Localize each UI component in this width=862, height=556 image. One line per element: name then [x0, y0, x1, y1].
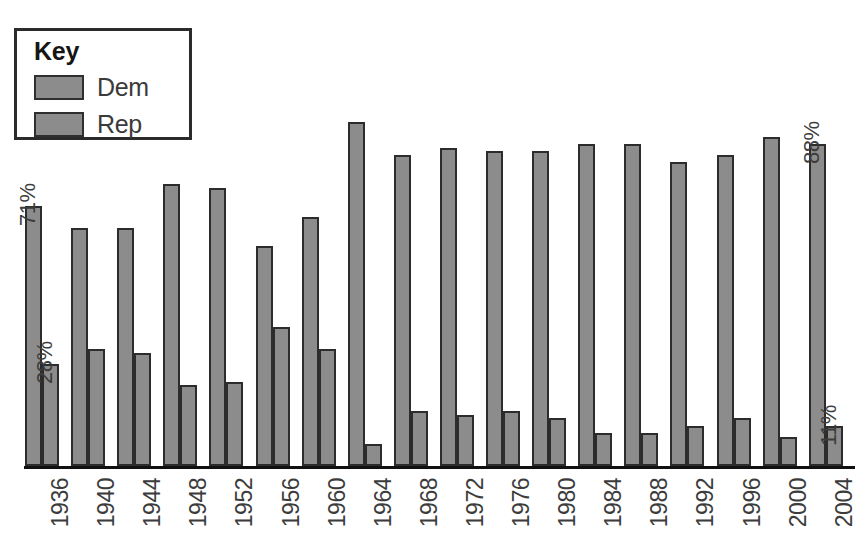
x-tick-label-1968: 1968	[416, 478, 443, 527]
bar-dem-1952	[209, 188, 226, 466]
value-label-dem-2004: 88%	[799, 121, 825, 164]
bar-rep-1940	[88, 349, 105, 466]
x-tick-label-1952: 1952	[231, 478, 258, 527]
bar-dem-1944	[117, 228, 134, 466]
bar-dem-1956	[256, 246, 273, 466]
bar-dem-1948	[163, 184, 180, 466]
value-label-rep-1936: 28%	[32, 341, 58, 384]
legend-key: Key Dem Rep	[14, 28, 192, 140]
x-tick-label-1992: 1992	[692, 478, 719, 527]
value-label-rep-2004: 11%	[816, 405, 842, 446]
legend-swatch-rep	[34, 112, 84, 137]
bar-rep-1952	[226, 382, 243, 466]
x-tick-label-1956: 1956	[278, 478, 305, 527]
bar-dem-1940	[71, 228, 88, 466]
x-tick-label-1972: 1972	[462, 478, 489, 527]
bar-rep-1992	[687, 426, 704, 466]
value-label-dem-1936: 71%	[15, 184, 41, 227]
x-tick-label-1996: 1996	[739, 478, 766, 527]
bar-rep-1964	[365, 444, 382, 466]
bar-rep-2000	[780, 437, 797, 466]
chart-page: 1936194019441948195219561960196419681972…	[0, 0, 862, 556]
x-tick-label-1964: 1964	[370, 478, 397, 527]
bar-dem-1968	[394, 155, 411, 466]
x-tick-label-1940: 1940	[93, 478, 120, 527]
bar-dem-1964	[348, 122, 365, 466]
bar-rep-1968	[411, 411, 428, 466]
bar-dem-2000	[763, 137, 780, 466]
legend-label-dem: Dem	[97, 73, 149, 102]
x-tick-label-2004: 2004	[831, 478, 858, 527]
bar-dem-1960	[302, 217, 319, 466]
legend-title: Key	[34, 37, 79, 66]
bar-rep-1956	[273, 327, 290, 466]
x-tick-label-1976: 1976	[508, 478, 535, 527]
legend-label-rep: Rep	[97, 110, 142, 139]
bar-dem-1984	[578, 144, 595, 466]
bar-rep-1984	[595, 433, 612, 466]
x-tick-label-2000: 2000	[785, 478, 812, 527]
x-axis-line	[24, 466, 855, 469]
x-tick-label-1948: 1948	[185, 478, 212, 527]
bar-dem-1992	[670, 162, 687, 466]
bar-rep-1980	[549, 418, 566, 466]
x-tick-label-1936: 1936	[47, 478, 74, 527]
x-tick-label-1944: 1944	[139, 478, 166, 527]
x-tick-label-1988: 1988	[646, 478, 673, 527]
bar-rep-1944	[134, 353, 151, 466]
bar-rep-1960	[319, 349, 336, 466]
bar-dem-1980	[532, 151, 549, 466]
legend-item-rep: Rep	[34, 110, 142, 139]
bar-rep-1976	[503, 411, 520, 466]
x-tick-label-1960: 1960	[324, 478, 351, 527]
x-tick-label-1980: 1980	[554, 478, 581, 527]
legend-swatch-dem	[34, 75, 84, 100]
bar-dem-1996	[717, 155, 734, 466]
bar-dem-1972	[440, 148, 457, 466]
legend-item-dem: Dem	[34, 73, 149, 102]
bar-rep-1972	[457, 415, 474, 466]
bar-dem-1976	[486, 151, 503, 466]
bar-rep-1948	[180, 385, 197, 466]
bar-rep-1996	[734, 418, 751, 466]
bar-dem-1988	[624, 144, 641, 466]
bar-dem-1936	[25, 206, 42, 466]
bar-rep-1988	[641, 433, 658, 466]
x-tick-label-1984: 1984	[600, 478, 627, 527]
